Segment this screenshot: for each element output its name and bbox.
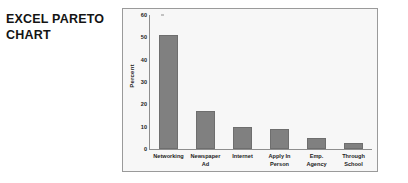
y-tick-label: 60 [141,12,147,18]
bar[interactable] [233,127,252,149]
bar[interactable] [344,143,363,149]
chart-container: Percent 0102030405060 NetworkingNewspape… [122,8,378,172]
y-tick-label: 30 [141,79,147,85]
bar-series [150,15,372,149]
bar-slot [298,15,335,149]
y-tick-label: 40 [141,57,147,63]
x-tick-label: Through School [335,152,372,169]
bar[interactable] [270,129,289,149]
bar[interactable] [159,35,178,149]
x-tick-label: Newspaper Ad [187,152,224,169]
chart-page: EXCEL PARETO CHART Percent 0102030405060… [0,0,408,183]
y-tick-label: 20 [141,101,147,107]
x-tick-label: Emp. Agency [298,152,335,169]
bar-slot [150,15,187,149]
bar[interactable] [196,111,215,149]
plot-area: Percent 0102030405060 NetworkingNewspape… [123,9,377,171]
y-tick-label: 50 [141,34,147,40]
y-axis-ticks: 0102030405060 [135,15,149,149]
bar-slot [224,15,261,149]
page-title-text: EXCEL PARETO CHART [6,12,118,43]
x-tick-label: Internet [224,152,261,169]
bar[interactable] [307,138,326,149]
bar-slot [335,15,372,149]
x-axis-line [149,149,372,150]
x-tick-label: Networking [150,152,187,169]
x-tick-label: Apply In Person [261,152,298,169]
y-tick-label: 10 [141,124,147,130]
bar-slot [187,15,224,149]
y-tick-label: 0 [144,146,147,152]
x-axis-labels: NetworkingNewspaper AdInternetApply In P… [150,152,372,169]
page-title: EXCEL PARETO CHART [6,12,118,43]
bar-slot [261,15,298,149]
